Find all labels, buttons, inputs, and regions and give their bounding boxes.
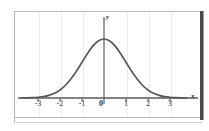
frame-left-edge bbox=[14, 11, 15, 122]
xtick-label-zero: 0 bbox=[95, 100, 107, 108]
y-axis-label: y bbox=[106, 14, 109, 21]
frame-bottom-rule bbox=[14, 122, 203, 123]
xtick-label-pos3: 3 bbox=[164, 100, 176, 108]
gaussian-curve-figure: -3 -2 -1 0 1 2 3 y x bbox=[0, 0, 209, 131]
x-axis-label: x bbox=[191, 93, 195, 100]
right-edge-bar-highlight bbox=[203, 11, 204, 120]
xtick-label-neg2: -2 bbox=[54, 100, 66, 108]
xtick-label-neg1: -1 bbox=[76, 100, 88, 108]
xtick-label-pos1: 1 bbox=[120, 100, 132, 108]
xtick-label-neg3: -3 bbox=[32, 100, 44, 108]
xtick-label-pos2: 2 bbox=[142, 100, 154, 108]
